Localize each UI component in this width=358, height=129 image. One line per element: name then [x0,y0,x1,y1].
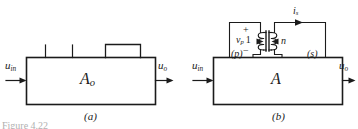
primary-polarity-minus-label: − [243,46,249,56]
figure-container: uin Ao uo (a) uin A uo + vp 1 − (p) n (s… [0,0,358,129]
figure-number-partial: Figure 4.22 [2,121,48,129]
panel-a-top-module-box [106,45,141,58]
primary-winding-label: (p) [231,49,243,59]
panel-b-secondary-lower-lead [275,50,283,58]
panel-b-block-label: A [271,71,281,89]
figure-linework [0,0,358,129]
panel-a-block-label: Ao [80,71,95,89]
secondary-turns-label: n [281,36,286,46]
panel-b-caption: (b) [272,111,285,122]
panel-b-output-arrow-head [349,77,356,83]
panel-a-caption: (a) [84,111,97,122]
panel-a-output-arrow-head [167,77,174,83]
secondary-winding-label: (s) [307,49,318,59]
panel-b-output-label: uo [339,60,348,73]
panel-b-secondary-current-arrow-head [295,19,303,25]
panel-b-input-arrow-head [207,77,214,83]
panel-a-input-label: uin [5,60,16,73]
panel-a-output-label: uo [158,60,167,73]
panel-b-primary-lower-lead [253,50,261,58]
panel-b-input-label: uin [192,60,203,73]
panel-a-input-arrow-head [20,77,27,83]
secondary-current-label: is [293,6,298,17]
primary-turns-label: 1 [246,34,251,45]
